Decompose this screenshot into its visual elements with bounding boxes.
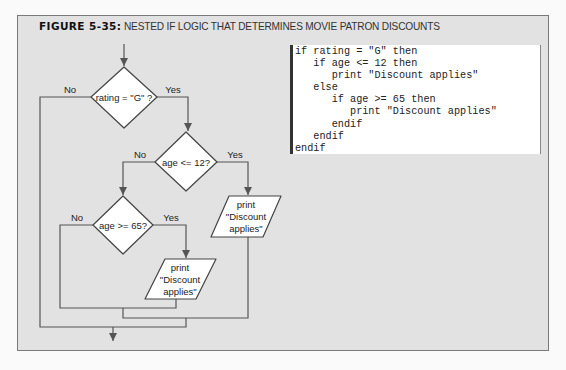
- output1-line1: print: [237, 199, 256, 210]
- code-line: print "Discount applies": [295, 106, 497, 117]
- code-line: endif: [295, 131, 344, 142]
- decision-rating-text: rating = "G" ?: [96, 92, 153, 103]
- output1-line2: "Discount: [226, 211, 267, 222]
- decision-age12-no-label: No: [134, 149, 146, 160]
- code-line: endif: [295, 143, 326, 154]
- decision-age65-text: age >= 65?: [99, 220, 147, 231]
- code-line: if rating = "G" then: [295, 46, 417, 57]
- decision-age12-yes-label: Yes: [227, 149, 243, 160]
- output2-line1: print: [171, 262, 190, 273]
- decision-age12-text: age <= 12?: [162, 157, 210, 168]
- code-line: print "Discount applies": [295, 70, 478, 81]
- output1-line3: applies": [229, 223, 262, 234]
- pseudocode-box: if rating = "G" then if age <= 12 then p…: [290, 45, 541, 154]
- decision-rating-yes-label: Yes: [165, 84, 181, 95]
- pseudocode: if rating = "G" then if age <= 12 then p…: [293, 45, 540, 155]
- code-line: if age <= 12 then: [295, 58, 417, 69]
- code-line: else: [295, 82, 338, 93]
- output2-line3: applies": [163, 286, 196, 297]
- decision-rating-no-label: No: [64, 84, 76, 95]
- decision-age65-yes-label: Yes: [163, 212, 179, 223]
- code-line: endif: [295, 119, 362, 130]
- code-line: if age >= 65 then: [295, 94, 436, 105]
- output2-line2: "Discount: [160, 274, 201, 285]
- decision-age65-no-label: No: [71, 212, 83, 223]
